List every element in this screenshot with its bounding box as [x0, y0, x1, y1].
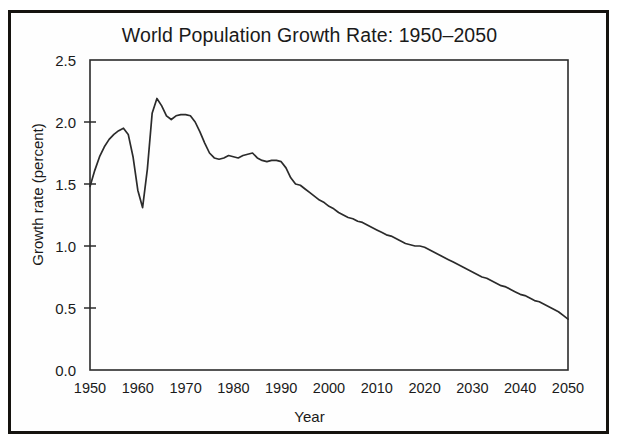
y-tick-label: 2.0: [32, 114, 76, 131]
y-tick-label: 1.5: [32, 176, 76, 193]
y-tick-label: 0.0: [32, 362, 76, 379]
growth-rate-line: [90, 98, 568, 319]
y-tick-label: 2.5: [32, 52, 76, 69]
y-tick-label: 1.0: [32, 238, 76, 255]
data-line-group: [90, 98, 568, 319]
y-tick-label: 0.5: [32, 300, 76, 317]
x-tick-label: 2050: [538, 380, 598, 396]
chart-page: World Population Growth Rate: 1950–2050 …: [0, 0, 619, 446]
line-chart-figure: World Population Growth Rate: 1950–2050 …: [0, 0, 619, 446]
